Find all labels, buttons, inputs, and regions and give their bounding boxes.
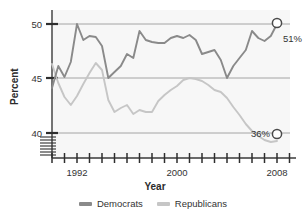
legend-swatch-republicans	[157, 202, 170, 206]
democrats-endpoint-marker	[272, 18, 281, 27]
legend-label-republicans: Republicans	[175, 198, 227, 209]
y-tick-label-40: 40	[31, 128, 42, 139]
democrats-value-annotation: 51%	[283, 33, 303, 44]
chart-legend: Democrats Republicans	[0, 193, 306, 214]
y-tick-label-50: 50	[31, 19, 42, 30]
y-tick-label-45: 45	[31, 73, 42, 84]
party-identification-line-chart: 50 45 40 Percent 1992 2000 2008 Year 51%…	[0, 0, 306, 214]
legend-item-democrats: Democrats	[79, 198, 143, 209]
x-tick-label-1992: 1992	[66, 167, 87, 178]
legend-item-republicans: Republicans	[157, 198, 227, 209]
y-axis-break-symbol	[40, 137, 56, 155]
chart-container: 50 45 40 Percent 1992 2000 2008 Year 51%…	[0, 0, 306, 214]
legend-label-democrats: Democrats	[97, 198, 143, 209]
x-axis-title: Year	[144, 181, 165, 192]
x-tick-label-2008: 2008	[266, 167, 287, 178]
republicans-endpoint-marker	[272, 129, 281, 138]
y-axis-title: Percent	[9, 68, 20, 105]
republicans-value-annotation: 36%	[251, 128, 271, 139]
legend-swatch-democrats	[79, 202, 92, 206]
x-tick-label-2000: 2000	[166, 167, 187, 178]
